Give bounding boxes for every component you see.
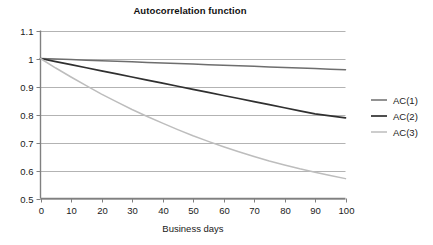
gridlines bbox=[41, 32, 346, 200]
autocorrelation-chart: Autocorrelation function 010203040506070… bbox=[0, 0, 433, 245]
x-tick-label: 90 bbox=[310, 205, 321, 216]
y-tick-label: 0.5 bbox=[20, 194, 33, 205]
legend-label-ac3: AC(3) bbox=[393, 127, 418, 138]
x-tick-label: 20 bbox=[97, 205, 108, 216]
y-tick-label: 0.9 bbox=[20, 82, 33, 93]
legend-label-ac2: AC(2) bbox=[393, 111, 418, 122]
x-axis-tick-labels: 0102030405060708090100 bbox=[39, 205, 355, 216]
y-tick-label: 0.7 bbox=[20, 138, 33, 149]
y-tick-label: 1.1 bbox=[20, 26, 33, 37]
x-tick-label: 100 bbox=[339, 205, 355, 216]
x-tick-label: 0 bbox=[39, 205, 44, 216]
x-tick-label: 60 bbox=[219, 205, 230, 216]
x-tick-label: 80 bbox=[280, 205, 291, 216]
y-tick-label: 0.8 bbox=[20, 110, 33, 121]
y-tick-label: 1 bbox=[28, 54, 33, 65]
x-tick-label: 10 bbox=[66, 205, 77, 216]
legend-label-ac1: AC(1) bbox=[393, 95, 418, 106]
x-tick-label: 70 bbox=[249, 205, 260, 216]
chart-plot-area: 0102030405060708090100 0.50.60.70.80.911… bbox=[0, 0, 433, 245]
x-tick-label: 40 bbox=[158, 205, 169, 216]
y-tick-label: 0.6 bbox=[20, 166, 33, 177]
x-axis-title: Business days bbox=[162, 223, 224, 234]
series-line-ac3 bbox=[41, 59, 346, 179]
x-tick-label: 50 bbox=[188, 205, 199, 216]
x-tick-label: 30 bbox=[127, 205, 138, 216]
data-series bbox=[41, 59, 346, 179]
chart-legend: AC(1)AC(2)AC(3) bbox=[371, 95, 418, 138]
y-axis-tick-labels: 0.50.60.70.80.911.1 bbox=[20, 26, 33, 205]
